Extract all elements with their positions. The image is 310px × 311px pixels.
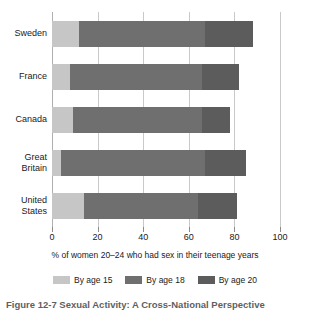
plot-area [52, 12, 280, 227]
x-tick-label: 100 [272, 232, 287, 243]
bar-segment [202, 64, 238, 90]
chart-legend: By age 15By age 18By age 20 [0, 275, 310, 285]
bar-segment [70, 64, 202, 90]
bar-stack [52, 107, 230, 133]
bar-segment [61, 150, 205, 176]
x-tick-label: 80 [229, 232, 239, 243]
bar-segment [52, 64, 70, 90]
bar-segment [52, 107, 73, 133]
bar-segment [202, 107, 229, 133]
bar-row [52, 193, 280, 219]
legend-item[interactable]: By age 15 [53, 275, 112, 285]
x-axis-title: % of women 20–24 who had sex in their te… [0, 250, 310, 261]
bar-stack [52, 64, 239, 90]
legend-item[interactable]: By age 20 [198, 275, 257, 285]
bar-segment [198, 193, 237, 219]
legend-label: By age 20 [219, 275, 257, 285]
gridline-100 [280, 12, 281, 227]
bar-segment [52, 21, 79, 47]
bar-stack [52, 193, 237, 219]
x-tick-label: 0 [49, 232, 54, 243]
x-tick-label: 60 [184, 232, 194, 243]
bar-segment [73, 107, 203, 133]
category-label: France [19, 71, 47, 82]
bar-row [52, 150, 280, 176]
legend-item[interactable]: By age 18 [125, 275, 184, 285]
bar-stack [52, 150, 246, 176]
figure-container: SwedenFranceCanadaGreat BritainUnited St… [0, 0, 310, 311]
legend-label: By age 15 [74, 275, 112, 285]
bar-stack [52, 21, 253, 47]
legend-label: By age 18 [146, 275, 184, 285]
category-label: Great Britain [21, 152, 47, 174]
bar-row [52, 107, 280, 133]
x-axis-tick-labels: 020406080100 [52, 232, 280, 246]
bar-segment [205, 150, 246, 176]
bar-segment [52, 193, 84, 219]
category-label: United States [21, 195, 47, 217]
legend-swatch-icon [53, 276, 70, 284]
figure-caption: Figure 12-7 Sexual Activity: A Cross-Nat… [6, 299, 304, 310]
x-tick-label: 20 [93, 232, 103, 243]
bar-row [52, 64, 280, 90]
category-label: Canada [15, 114, 47, 125]
category-axis-labels: SwedenFranceCanadaGreat BritainUnited St… [0, 12, 47, 227]
legend-swatch-icon [198, 276, 215, 284]
bar-segment [79, 21, 204, 47]
bar-segment [205, 21, 253, 47]
bar-segment [84, 193, 198, 219]
x-tick-label: 40 [138, 232, 148, 243]
bar-segment [52, 150, 61, 176]
category-label: Sweden [14, 28, 47, 39]
legend-swatch-icon [125, 276, 142, 284]
bar-row [52, 21, 280, 47]
